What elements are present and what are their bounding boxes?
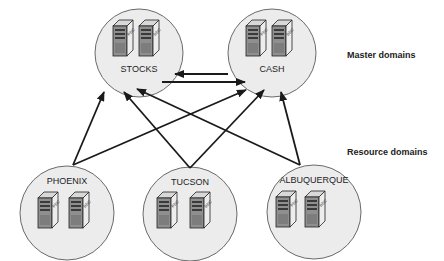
domain-albuquerque: ALBUQUERQUE PDC BDC <box>267 165 361 259</box>
server-bdc-icon: BDC <box>272 20 295 56</box>
server-bdc-icon: BDC <box>305 191 328 227</box>
server-pdc-icon: PDC <box>276 191 299 227</box>
domain-name-cash: CASH <box>259 64 284 74</box>
server-bdc-icon: BDC <box>69 192 92 228</box>
server-bdc-icon: BDC <box>190 192 213 228</box>
resource-domains-label: Resource domains <box>347 147 428 157</box>
arrow-albuquerque-to-cash <box>281 92 300 165</box>
domain-name-tucson: TUCSON <box>171 177 209 187</box>
server-pdc-icon: PDC <box>157 192 180 228</box>
domain-tucson: TUCSON PDC BDC <box>143 167 237 261</box>
domain-phoenix: PHOENIX PDC BDC <box>20 166 114 260</box>
master-domains-label: Master domains <box>347 50 416 60</box>
domain-stocks: PDC BDC STOCKS <box>95 9 183 97</box>
domain-name-stocks: STOCKS <box>121 64 158 74</box>
server-pdc-icon: PDC <box>38 192 61 228</box>
arrow-tucson-to-stocks <box>124 92 190 168</box>
arrow-tucson-to-cash <box>190 90 264 168</box>
domain-name-phoenix: PHOENIX <box>47 176 88 186</box>
server-pdc-icon: PDC <box>246 20 269 56</box>
trust-relationship-diagram: PDC BDC STOCKS PDC BDC CASH PHOENIX PDC … <box>0 0 444 261</box>
server-bdc-icon: BDC <box>139 20 162 56</box>
domain-name-albuquerque: ALBUQUERQUE <box>279 175 348 185</box>
domain-cash: PDC BDC CASH <box>228 9 316 97</box>
server-pdc-icon: PDC <box>113 20 136 56</box>
